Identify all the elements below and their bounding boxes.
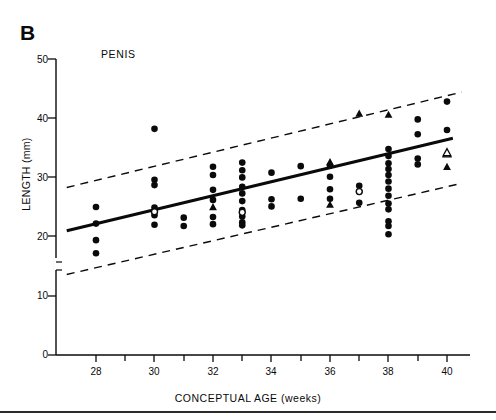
band-lower-band: [67, 183, 462, 274]
data-point-filled-circle: [297, 163, 304, 170]
data-point-filled-circle: [93, 204, 100, 211]
y-axis-ticks: [48, 59, 56, 355]
data-point-filled-circle: [239, 190, 246, 197]
data-point-filled-circle: [239, 167, 246, 174]
footer-rule: [0, 411, 496, 413]
data-point-filled-circle: [151, 126, 158, 133]
data-point-filled-circle: [356, 200, 363, 207]
data-point-filled-circle: [239, 222, 246, 229]
data-point-filled-circle: [385, 231, 392, 238]
data-point-filled-circle: [210, 221, 217, 228]
data-point-filled-circle: [210, 163, 217, 170]
data-point-filled-circle: [239, 159, 246, 166]
data-point-filled-circle: [385, 178, 392, 185]
data-point-open-circle: [152, 209, 158, 215]
data-point-filled-circle: [151, 221, 158, 228]
data-point-filled-circle: [239, 174, 246, 181]
data-point-filled-circle: [385, 192, 392, 199]
data-point-filled-circle: [385, 166, 392, 173]
data-point-filled-circle: [414, 161, 421, 168]
data-point-filled-circle: [151, 182, 158, 189]
data-point-open-circle: [356, 189, 362, 195]
data-point-filled-circle: [385, 153, 392, 160]
data-point-filled-circle: [210, 214, 217, 221]
data-point-filled-circle: [268, 203, 275, 210]
data-point-filled-triangle: [326, 158, 334, 165]
data-point-filled-circle: [327, 174, 334, 181]
data-point-filled-circle: [414, 131, 421, 138]
data-point-filled-circle: [210, 172, 217, 179]
data-point-filled-circle: [180, 223, 187, 230]
data-point-open-circle: [239, 209, 245, 215]
data-point-filled-circle: [268, 196, 275, 203]
data-point-filled-circle: [414, 116, 421, 123]
regression-line: [67, 138, 453, 230]
data-point-filled-circle: [210, 197, 217, 204]
data-point-filled-circle: [210, 187, 217, 194]
axis-lines: [56, 59, 470, 355]
regression-line-path: [67, 138, 453, 230]
data-point-filled-circle: [385, 223, 392, 230]
data-point-filled-circle: [385, 206, 392, 213]
data-point-filled-circle: [268, 169, 275, 176]
figure-panel-b: B PENIS LENGTH (mm) CONCEPTUAL AGE (week…: [0, 0, 496, 420]
data-point-filled-circle: [444, 127, 451, 134]
data-points: [93, 98, 451, 256]
data-point-filled-triangle: [443, 163, 451, 170]
data-point-filled-circle: [385, 146, 392, 153]
data-point-filled-triangle: [326, 201, 334, 208]
data-point-filled-circle: [385, 172, 392, 179]
data-point-filled-circle: [385, 200, 392, 207]
data-point-filled-circle: [297, 195, 304, 202]
band-upper-band: [67, 92, 462, 187]
data-point-filled-circle: [327, 186, 334, 193]
data-point-filled-circle: [444, 98, 451, 105]
data-point-filled-circle: [239, 198, 246, 205]
data-point-filled-circle: [385, 185, 392, 192]
data-point-filled-circle: [93, 250, 100, 257]
data-point-filled-circle: [239, 184, 246, 191]
data-point-filled-circle: [385, 160, 392, 167]
data-point-filled-circle: [180, 214, 187, 221]
plot-canvas: [0, 0, 496, 420]
data-point-filled-triangle: [209, 203, 217, 210]
x-axis-ticks: [96, 355, 447, 362]
data-point-filled-circle: [93, 220, 100, 227]
data-point-filled-triangle: [355, 110, 363, 117]
data-point-filled-circle: [93, 237, 100, 244]
data-point-open-triangle: [443, 149, 451, 156]
data-point-filled-triangle: [385, 111, 393, 118]
data-point-filled-circle: [414, 155, 421, 162]
